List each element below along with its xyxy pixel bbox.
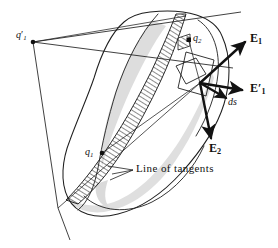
label-q1prime-sub: 1 [23,34,26,41]
label-E1-sub: 1 [258,37,262,46]
label-E2-base: E [209,141,217,155]
label-vector-E1prime: E′1 [250,82,265,96]
label-vector-E1: E1 [250,32,262,46]
tangent-down-extension [58,208,70,240]
label-vector-ds: ds [228,97,237,107]
marker-q1-dot [100,151,105,156]
label-vector-E2: E2 [209,142,221,156]
vector-E1-arrow [200,42,245,83]
marker-q1prime-dot [31,40,36,45]
figure-canvas: q′1 q2 q1 E1 E′1 ds E2 Line of tangents [0,0,278,248]
leader-branch-lower [110,170,133,180]
annotation-leader [108,166,133,180]
label-point-q1: q1 [85,147,93,159]
label-line-of-tangents: Line of tangents [136,163,214,174]
tangent-band-fill [66,14,186,204]
label-E1prime-sub: 1 [261,87,265,96]
label-q2-sub: 2 [198,37,201,44]
leader-stem [112,170,133,174]
diagram-svg [0,0,278,248]
label-q1-sub: 1 [90,151,93,158]
label-point-q2: q2 [193,33,201,45]
leader-branch-upper [108,166,133,170]
tangent-left-edge [33,42,58,208]
line-of-tangents-band [66,14,190,204]
label-E1-base: E [250,31,258,45]
label-E2-sub: 2 [217,147,221,156]
label-E1prime-base: E [250,81,258,95]
tangent-upper [33,12,241,42]
label-point-q1prime: q′1 [16,30,27,42]
marker-q2-square [187,38,192,43]
